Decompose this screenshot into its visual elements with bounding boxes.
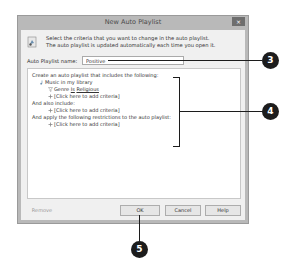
new-auto-playlist-dialog: New Auto Playlist × Select the criteria …	[17, 15, 249, 224]
callout-3-leader	[108, 60, 262, 61]
criteria-panel: Create an auto playlist that includes th…	[27, 68, 241, 199]
cancel-button[interactable]: Cancel	[165, 205, 201, 216]
info-line-1: Select the criteria that you want to cha…	[46, 35, 215, 42]
also-include-label: And also include:	[32, 100, 75, 106]
genre-criterion[interactable]: Genre Is Religious	[48, 86, 99, 92]
criteria-header: Create an auto playlist that includes th…	[32, 72, 158, 78]
dialog-title: New Auto Playlist	[18, 18, 248, 26]
filter-icon	[48, 87, 53, 92]
add-criteria-link-2[interactable]: [Click here to add criteria]	[48, 107, 120, 113]
add-criteria-label: [Click here to add criteria]	[54, 93, 120, 99]
remove-button[interactable]: Remove	[27, 205, 57, 216]
help-button[interactable]: Help	[205, 205, 241, 216]
genre-value-link[interactable]: Religious	[76, 86, 99, 92]
ok-button[interactable]: OK	[120, 205, 160, 216]
playlist-name-label: Auto Playlist name:	[27, 58, 77, 64]
restrictions-label: And apply the following restrictions to …	[32, 114, 171, 120]
dialog-client-area: Select the criteria that you want to cha…	[21, 30, 245, 220]
add-criteria-link-3[interactable]: [Click here to add criteria]	[48, 121, 120, 127]
callout-4-bracket-bottom	[173, 146, 180, 147]
add-icon	[48, 94, 53, 99]
callout-4-leader	[180, 111, 263, 112]
callout-3: 3	[262, 52, 279, 69]
add-icon	[48, 108, 53, 113]
genre-operator-link[interactable]: Is	[71, 86, 75, 92]
add-icon	[48, 122, 53, 127]
music-note-icon	[39, 80, 44, 85]
close-button[interactable]: ×	[232, 17, 245, 26]
callout-5: 5	[131, 241, 148, 258]
add-criteria-label: [Click here to add criteria]	[54, 107, 120, 113]
callout-4: 4	[262, 103, 279, 120]
genre-field: Genre	[54, 86, 69, 92]
callout-5-leader	[139, 215, 140, 242]
title-bar: New Auto Playlist ×	[18, 16, 248, 30]
add-criteria-link-1[interactable]: [Click here to add criteria]	[48, 93, 120, 99]
info-line-2: The auto playlist is updated automatical…	[46, 42, 215, 49]
info-text: Select the criteria that you want to cha…	[46, 35, 215, 49]
criteria-source[interactable]: Music in my library	[39, 79, 92, 85]
playlist-icon	[27, 36, 37, 48]
add-criteria-label: [Click here to add criteria]	[54, 121, 120, 127]
callout-4-bracket-spine	[179, 77, 180, 147]
source-label: Music in my library	[45, 79, 92, 85]
